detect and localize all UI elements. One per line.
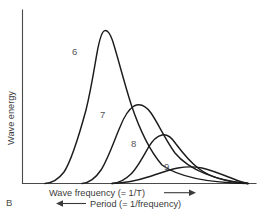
wave-energy-figure: Wave energy 6 7 8 9 Wave frequency (= 1/… — [0, 0, 270, 214]
period-label: Period (= 1/frequency) — [90, 199, 181, 209]
panel-label: B — [6, 197, 12, 208]
x-axis-label: Wave frequency (= 1/T) — [49, 188, 145, 198]
period-label-group: Period (= 1/frequency) — [56, 199, 181, 209]
wave-spectrum-plot: Wave energy 6 7 8 9 Wave frequency (= 1/… — [0, 0, 270, 214]
curve-label-6: 6 — [72, 46, 77, 57]
period-arrow-head-left-icon — [56, 200, 63, 207]
curve-label-9: 9 — [164, 161, 169, 172]
y-axis-label: Wave energy — [6, 91, 16, 145]
curve-label-7: 7 — [100, 109, 105, 120]
x-axis-label-group: Wave frequency (= 1/T) — [49, 188, 196, 198]
curve-label-8: 8 — [131, 138, 136, 149]
axis-group — [23, 10, 257, 184]
x-axis-arrow-head-right-icon — [189, 189, 196, 196]
